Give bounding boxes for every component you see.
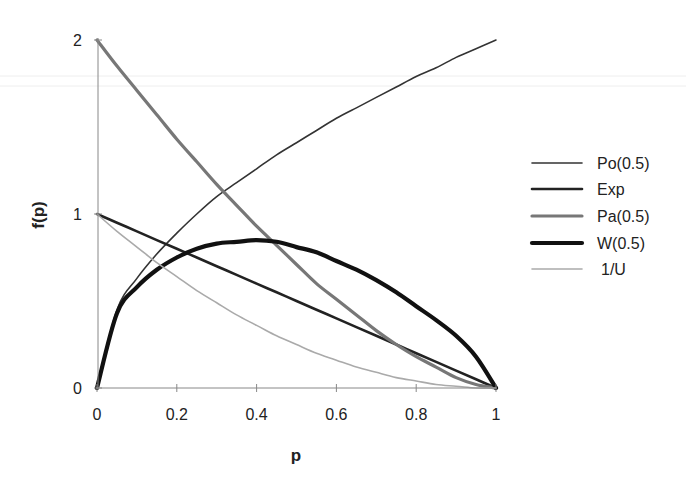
x-tick-label: 1 xyxy=(492,406,501,423)
series-line-po-0-5 xyxy=(97,40,496,388)
series-line-exp xyxy=(97,214,496,388)
legend-item-po-0-5: Po(0.5) xyxy=(532,155,649,172)
y-tick-label: 0 xyxy=(73,380,82,397)
x-tick-label: 0.6 xyxy=(325,406,347,423)
legend-item-1-u: 1/U xyxy=(532,261,626,278)
x-axis-title: p xyxy=(291,446,301,465)
y-tick-label: 2 xyxy=(73,32,82,49)
plot-series xyxy=(97,40,496,388)
y-tick-label: 1 xyxy=(73,206,82,223)
legend-label: W(0.5) xyxy=(597,235,645,252)
y-axis-title: f(p) xyxy=(29,201,48,228)
chart: 00.20.40.60.81 012 p f(p) Po(0.5)ExpPa(0… xyxy=(0,0,686,489)
x-tick-label: 0 xyxy=(93,406,102,423)
x-tick-label: 0.4 xyxy=(245,406,267,423)
x-tick-label: 0.8 xyxy=(405,406,427,423)
legend-item-exp: Exp xyxy=(532,181,625,198)
legend-label: 1/U xyxy=(601,261,626,278)
legend-label: Exp xyxy=(597,181,625,198)
legend-item-pa-0-5: Pa(0.5) xyxy=(532,208,649,225)
legend: Po(0.5)ExpPa(0.5)W(0.5)1/U xyxy=(532,155,649,278)
legend-label: Po(0.5) xyxy=(597,155,649,172)
x-ticks: 00.20.40.60.81 xyxy=(93,384,501,423)
legend-item-w-0-5: W(0.5) xyxy=(532,235,645,252)
legend-label: Pa(0.5) xyxy=(597,208,649,225)
x-tick-label: 0.2 xyxy=(166,406,188,423)
series-line-pa-0-5 xyxy=(97,40,496,388)
